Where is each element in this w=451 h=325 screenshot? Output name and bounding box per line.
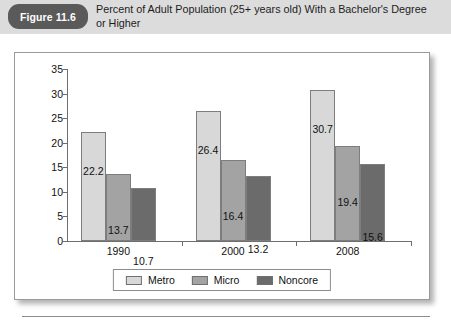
y-tick-mark (63, 241, 67, 242)
x-axis-line (67, 241, 411, 242)
bar-noncore-1990[interactable]: 10.7 (131, 188, 156, 241)
legend-item-metro[interactable]: Metro (126, 274, 175, 286)
y-tick-mark (63, 94, 67, 95)
x-tick-mark (411, 241, 412, 246)
bar-group: 30.719.415.6 (310, 69, 385, 241)
y-tick-mark (63, 69, 67, 70)
y-axis-line (67, 69, 68, 241)
bar-micro-2000[interactable]: 16.4 (221, 160, 246, 241)
bar-value-label: 22.2 (82, 165, 105, 177)
chart-legend: MetroMicroNoncore (113, 269, 331, 291)
bar-value-label: 13.7 (107, 224, 130, 236)
legend-swatch-micro (192, 276, 208, 285)
y-tick-label: 25 (21, 112, 63, 124)
bar-metro-2008[interactable]: 30.7 (310, 90, 335, 241)
bar-group: 26.416.413.2 (196, 69, 271, 241)
bar-value-label: 19.4 (336, 196, 359, 208)
y-tick-label: 0 (21, 235, 63, 247)
y-tick-mark (63, 216, 67, 217)
y-tick-mark (63, 192, 67, 193)
bottom-divider-rule (22, 316, 430, 317)
y-tick-label: 5 (21, 210, 63, 222)
bar-value-label: 10.7 (132, 255, 155, 267)
bar-value-label: 26.4 (197, 144, 220, 156)
y-tick-label: 30 (21, 88, 63, 100)
bar-metro-2000[interactable]: 26.4 (196, 111, 221, 241)
figure-number-label: Figure 11.6 (20, 11, 76, 23)
figure-caption: Percent of Adult Population (25+ years o… (96, 2, 436, 30)
figure-header-band: Figure 11.6 Percent of Adult Population … (0, 0, 451, 34)
y-tick-label: 15 (21, 161, 63, 173)
plot-area: 05101520253035 22.213.710.726.416.413.23… (67, 69, 411, 241)
x-category-label: 2000 (221, 245, 244, 257)
chart-frame: 05101520253035 22.213.710.726.416.413.23… (14, 52, 430, 300)
x-category-label: 2008 (336, 245, 359, 257)
bar-metro-1990[interactable]: 22.2 (81, 132, 106, 241)
x-tick-mark (296, 241, 297, 246)
bar-noncore-2008[interactable]: 15.6 (360, 164, 385, 241)
bar-noncore-2000[interactable]: 13.2 (246, 176, 271, 241)
bar-group: 22.213.710.7 (81, 69, 156, 241)
bar-micro-1990[interactable]: 13.7 (106, 174, 131, 241)
y-tick-label: 35 (21, 63, 63, 75)
legend-label: Metro (148, 274, 175, 286)
figure-number-badge: Figure 11.6 (8, 4, 88, 29)
bar-value-label: 15.6 (361, 231, 384, 243)
legend-item-micro[interactable]: Micro (192, 274, 240, 286)
bar-value-label: 13.2 (247, 243, 270, 255)
bar-value-label: 16.4 (222, 210, 245, 222)
y-axis-tick-labels: 05101520253035 (19, 69, 63, 241)
y-tick-mark (63, 167, 67, 168)
legend-item-noncore[interactable]: Noncore (256, 274, 318, 286)
legend-label: Micro (214, 274, 240, 286)
y-tick-mark (63, 143, 67, 144)
legend-swatch-metro (126, 276, 142, 285)
legend-swatch-noncore (256, 276, 272, 285)
x-tick-mark (182, 241, 183, 246)
legend-label: Noncore (278, 274, 318, 286)
y-tick-label: 20 (21, 137, 63, 149)
y-tick-mark (63, 118, 67, 119)
x-category-label: 1990 (107, 245, 130, 257)
bar-value-label: 30.7 (311, 123, 334, 135)
bar-micro-2008[interactable]: 19.4 (335, 146, 360, 241)
y-tick-label: 10 (21, 186, 63, 198)
